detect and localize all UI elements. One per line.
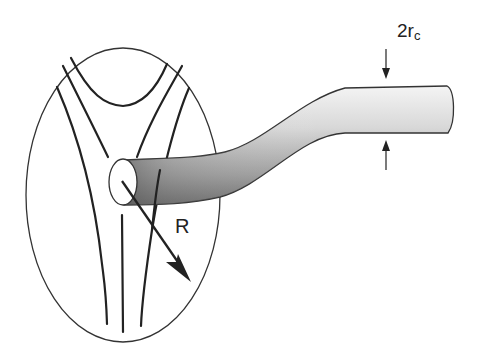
field-line-right-outer (141, 88, 189, 326)
field-line-center (122, 215, 123, 332)
up-arrow-icon (382, 140, 390, 151)
down-arrow-icon (382, 68, 390, 79)
field-line-top-curve (71, 58, 167, 106)
arrowhead-icon (166, 254, 191, 282)
diagram-canvas (0, 0, 479, 359)
distance-label: R (175, 215, 189, 238)
core-diameter-label: 2rc (397, 20, 420, 43)
field-line-left-outer (57, 87, 107, 324)
field-line-left-inner (63, 66, 108, 157)
